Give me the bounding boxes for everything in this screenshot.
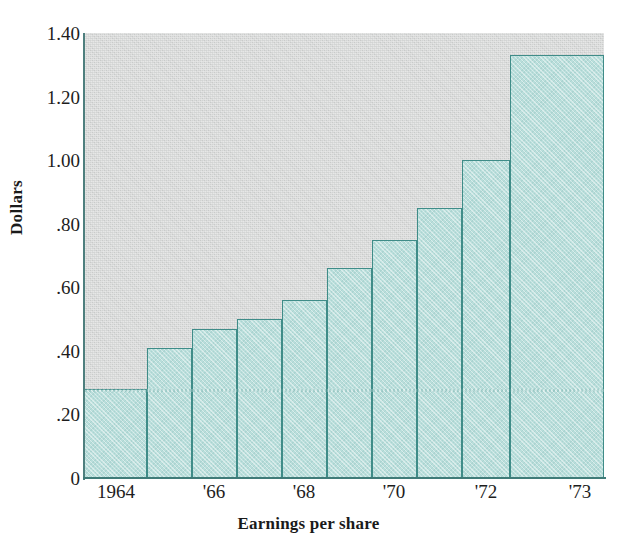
bar-chart: Dollars 1.401.201.00.80.60.40.200 1964'6… [0,0,617,549]
x-tick-label: '68 [293,482,315,501]
x-tick-label: '66 [203,482,225,501]
y-axis-line [83,33,85,480]
bar-1970 [372,240,417,478]
bar-1967 [237,319,282,478]
y-tick-label: .20 [18,405,80,424]
y-tick-label: .80 [18,214,80,233]
bar-1965 [147,348,192,478]
bar-1968 [282,300,327,478]
x-tick-label: '70 [383,482,405,501]
y-tick-label: 1.20 [18,87,80,106]
x-tick-label: '73 [569,482,591,501]
y-tick-label: 1.40 [18,24,80,43]
bar-1971 [417,208,462,478]
bar-1964 [85,389,147,478]
x-tick-label: '72 [475,482,497,501]
y-axis-tick-labels: 1.401.201.00.80.60.40.200 [18,0,80,549]
y-tick-label: 0 [18,469,80,488]
bar-1972 [462,160,510,478]
x-axis-line [83,477,606,479]
bar-1969 [327,268,372,478]
bar-1966 [192,329,237,478]
x-axis-title: Earnings per share [0,514,617,534]
y-tick-label: .40 [18,341,80,360]
bar-1973 [510,55,604,478]
y-tick-label: 1.00 [18,151,80,170]
y-tick-label: .60 [18,278,80,297]
x-tick-label: 1964 [97,482,135,501]
plot-area [85,33,604,478]
